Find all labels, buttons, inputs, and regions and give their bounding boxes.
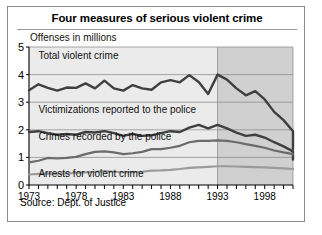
x-tick-label: 1998 [254, 191, 277, 202]
chart-figure: Four measures of serious violent crime O… [7, 6, 305, 222]
chart-svg: 012345197319781983198819931998Total viol… [8, 7, 306, 223]
y-tick-label: 2 [18, 124, 24, 136]
y-tick-label: 0 [18, 179, 24, 191]
series-label-1: Victimizations reported to the police [38, 104, 196, 115]
series-label-3: Arrests for violent crime [38, 168, 143, 179]
y-tick-label: 3 [18, 96, 24, 108]
plot-area: 012345197319781983198819931998Total viol… [8, 7, 306, 223]
series-label-2: Crimes recorded by the police [38, 131, 171, 142]
source-note: Source: Dept. of Justice [20, 197, 126, 208]
x-tick-label: 1988 [159, 191, 182, 202]
y-tick-label: 4 [18, 69, 24, 81]
y-tick-label: 5 [18, 41, 24, 53]
series-label-0: Total violent crime [38, 50, 118, 61]
plot-background [29, 47, 218, 185]
x-tick-label: 1993 [206, 191, 229, 202]
y-tick-label: 1 [18, 151, 24, 163]
shaded-projection-region [218, 47, 293, 185]
